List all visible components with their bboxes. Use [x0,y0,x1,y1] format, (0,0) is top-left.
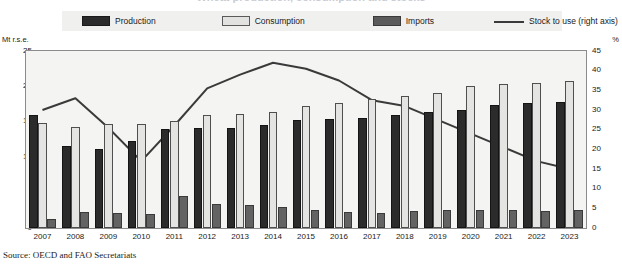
bar-imports-2018 [410,211,419,228]
bar-production-2010 [128,141,137,228]
y-tick-right-35: 35 [592,86,618,94]
bar-imports-2020 [476,210,485,228]
bar-consumption-2008 [71,127,80,228]
bar-consumption-2011 [170,121,179,228]
legend-label-consumption: Consumption [255,16,305,26]
bar-consumption-2009 [104,124,113,228]
bar-production-2016 [325,119,334,228]
figure-title-text: Wheat production, consumption and stocks [0,0,622,3]
x-label-2008: 2008 [67,232,85,241]
bar-imports-2022 [541,211,550,228]
chart-figure: Wheat production, consumption and stocks… [0,0,622,268]
legend-label-stock-to-use: Stock to use (right axis) [529,16,618,26]
bar-imports-2010 [146,214,155,228]
bar-imports-2023 [574,210,583,228]
bar-production-2021 [490,105,499,228]
bar-consumption-2016 [335,103,344,228]
x-label-2010: 2010 [132,232,150,241]
legend-item-consumption[interactable]: Consumption [222,16,305,26]
x-label-2015: 2015 [297,232,315,241]
bar-production-2007 [29,115,38,228]
legend-swatch-stock-to-use-icon [494,21,524,23]
x-label-2011: 2011 [166,232,183,241]
y-tick-right-15: 15 [592,165,618,173]
y-tick-right-5: 5 [592,204,618,212]
y-tick-right-45: 45 [592,47,618,55]
bar-production-2018 [391,115,400,228]
legend-swatch-consumption-icon [222,16,250,26]
source-note: Source: OECD and FAO Secretariats [3,250,136,260]
y-tick-right-0: 0 [592,224,618,232]
bar-consumption-2023 [565,81,574,228]
bar-consumption-2007 [38,123,47,228]
legend-item-stock-to-use[interactable]: Stock to use (right axis) [494,16,618,26]
bar-production-2020 [457,110,466,228]
plot-area [25,50,587,229]
legend-label-production: Production [115,16,156,26]
bar-imports-2009 [113,213,122,228]
y-tick-right-30: 30 [592,106,618,114]
bar-production-2013 [227,128,236,228]
bar-imports-2007 [47,219,56,228]
bar-production-2017 [358,118,367,228]
legend-item-imports[interactable]: Imports [373,16,434,26]
x-label-2017: 2017 [363,232,381,241]
bar-consumption-2010 [137,124,146,228]
bar-imports-2019 [443,210,452,228]
legend-swatch-imports-icon [373,16,401,26]
bar-consumption-2015 [302,106,311,228]
bar-consumption-2012 [203,115,212,228]
x-label-2014: 2014 [264,232,282,241]
legend-label-imports: Imports [406,16,434,26]
bar-production-2014 [260,125,269,228]
bar-consumption-2017 [368,99,377,228]
bar-consumption-2018 [401,96,410,228]
bar-imports-2008 [80,212,89,228]
y-tick-right-25: 25 [592,125,618,133]
bar-production-2012 [194,128,203,228]
x-label-2021: 2021 [495,232,513,241]
x-label-2023: 2023 [561,232,579,241]
legend-swatch-production-icon [82,16,110,26]
y-axis-unit-left: Mt r.s.e. [2,35,29,44]
bar-production-2015 [293,120,302,228]
x-label-2016: 2016 [330,232,348,241]
bar-consumption-2020 [466,86,475,228]
x-label-2022: 2022 [528,232,546,241]
x-label-2012: 2012 [198,232,216,241]
bar-imports-2013 [245,205,254,228]
bar-consumption-2019 [433,93,442,228]
bar-production-2009 [95,149,104,228]
x-label-2018: 2018 [396,232,414,241]
bar-production-2019 [424,112,433,228]
chart-legend: Production Consumption Imports Stock to … [62,11,562,31]
y-tick-right-10: 10 [592,184,618,192]
x-label-2019: 2019 [429,232,447,241]
bar-imports-2011 [179,196,188,228]
x-label-2013: 2013 [231,232,249,241]
bar-imports-2021 [509,210,518,228]
bar-consumption-2013 [236,114,245,228]
bar-imports-2017 [377,213,386,228]
figure-title-clipped: Wheat production, consumption and stocks [0,0,622,8]
bar-production-2022 [523,103,532,228]
bar-imports-2012 [212,204,221,228]
bar-production-2023 [556,102,565,228]
bar-production-2011 [161,129,170,228]
bar-consumption-2014 [269,112,278,228]
x-label-2020: 2020 [462,232,480,241]
bar-consumption-2021 [499,84,508,228]
bar-imports-2014 [278,207,287,228]
bar-imports-2015 [311,210,320,228]
bar-imports-2016 [344,212,353,228]
bar-consumption-2022 [532,83,541,228]
y-axis-unit-right: % [612,35,619,44]
legend-item-production[interactable]: Production [82,16,156,26]
y-tick-right-20: 20 [592,145,618,153]
x-label-2007: 2007 [34,232,52,241]
y-tick-right-40: 40 [592,66,618,74]
x-label-2009: 2009 [99,232,117,241]
bar-production-2008 [62,146,71,228]
plot-inner [26,51,586,228]
